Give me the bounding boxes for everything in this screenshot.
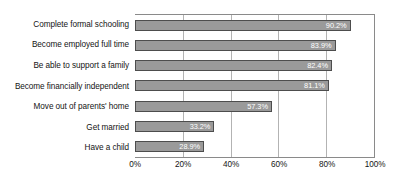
x-tick-label: 80% [319, 160, 335, 169]
bar-value-label: 81.1% [304, 81, 328, 90]
bar-row: 90.2% [135, 15, 374, 35]
category-label-cell: Complete formal schooling [0, 14, 132, 35]
bars-container: 90.2%83.9%82.4%81.1%57.3%33.2%28.9% [135, 15, 374, 157]
category-label: Have a child [85, 143, 132, 152]
category-label-cell: Become financially independent [0, 76, 132, 97]
bar-row: 28.9% [135, 137, 374, 157]
bar-row: 81.1% [135, 76, 374, 96]
bar: 83.9% [135, 40, 336, 51]
plot-area: 90.2%83.9%82.4%81.1%57.3%33.2%28.9% [135, 14, 375, 158]
category-axis-labels: Complete formal schoolingBecome employed… [0, 14, 132, 158]
category-label: Become financially independent [15, 82, 132, 91]
category-label-cell: Become employed full time [0, 35, 132, 56]
category-label-cell: Be able to support a family [0, 55, 132, 76]
bar-row: 33.2% [135, 116, 374, 136]
bar-value-label: 90.2% [326, 21, 350, 30]
category-label-cell: Move out of parents' home [0, 96, 132, 117]
category-label-cell: Get married [0, 117, 132, 138]
x-tick-label: 40% [223, 160, 239, 169]
bar-value-label: 83.9% [311, 41, 335, 50]
bar: 57.3% [135, 101, 272, 112]
bar-row: 57.3% [135, 96, 374, 116]
category-label: Complete formal schooling [33, 20, 132, 29]
category-label-cell: Have a child [0, 137, 132, 158]
bar-row: 83.9% [135, 35, 374, 55]
bar-value-label: 28.9% [179, 142, 203, 151]
bar-value-label: 57.3% [247, 102, 271, 111]
bar-value-label: 82.4% [307, 61, 331, 70]
bar: 33.2% [135, 121, 214, 132]
bar-value-label: 33.2% [190, 122, 214, 131]
category-label: Move out of parents' home [34, 102, 132, 111]
bar: 81.1% [135, 80, 329, 91]
bar: 90.2% [135, 20, 351, 31]
bar-chart: Complete formal schoolingBecome employed… [0, 0, 407, 189]
x-tick-label: 60% [271, 160, 287, 169]
x-tick-label: 0% [129, 160, 141, 169]
category-label: Be able to support a family [33, 61, 132, 70]
bar-row: 82.4% [135, 56, 374, 76]
category-label: Get married [86, 123, 132, 132]
category-label: Become employed full time [32, 40, 132, 49]
x-tick-label: 100% [365, 160, 386, 169]
x-axis-ticks: 0%20%40%60%80%100% [135, 160, 375, 174]
x-tick-label: 20% [175, 160, 191, 169]
bar: 28.9% [135, 141, 204, 152]
bar: 82.4% [135, 60, 332, 71]
